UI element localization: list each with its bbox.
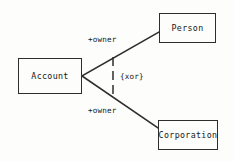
xor-constraint-label: {xor}: [120, 73, 144, 81]
uml-diagram-canvas: Account Person Corporation +owner +owner…: [0, 0, 234, 161]
uml-class-account-label: Account: [31, 72, 68, 80]
uml-class-account[interactable]: Account: [18, 58, 82, 94]
uml-class-corporation-label: Corporation: [159, 131, 218, 139]
association-line-account-corporation[interactable]: [82, 76, 158, 128]
association-role-label-owner-corporation: +owner: [88, 107, 117, 115]
uml-class-person-label: Person: [171, 24, 203, 32]
association-role-label-owner-person: +owner: [88, 36, 117, 44]
uml-class-person[interactable]: Person: [159, 13, 216, 43]
uml-class-corporation[interactable]: Corporation: [158, 120, 218, 150]
